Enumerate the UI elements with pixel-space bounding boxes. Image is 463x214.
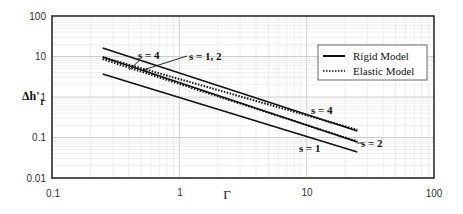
legend-rigid-label: Rigid Model [353, 50, 409, 62]
y-tick-10: 10 [35, 51, 47, 62]
x-tick-10: 10 [301, 187, 313, 198]
y-axis-label-main: Δh' [22, 89, 40, 103]
annotation-s4-left: s = 4 [138, 49, 160, 61]
y-tick-100: 100 [29, 11, 46, 22]
y-tick-0.01: 0.01 [27, 173, 47, 184]
x-tick-100: 100 [426, 188, 443, 199]
annotation-s2-right: s = 2 [361, 137, 383, 149]
legend-elastic-label: Elastic Model [353, 65, 414, 77]
annotation-s12-left: s = 1, 2 [189, 50, 222, 62]
y-tick-0.1: 0.1 [32, 132, 46, 143]
annotation-s4-right: s = 4 [311, 104, 333, 116]
legend: Rigid Model Elastic Model [318, 45, 427, 80]
annotation-s1-right: s = 1 [299, 142, 321, 154]
x-tick-0.1: 0.1 [46, 188, 60, 199]
x-axis-label: Γ [223, 187, 231, 202]
x-tick-1: 1 [177, 187, 183, 198]
chart-canvas: 100 10 1 0.1 0.01 0.1 1 10 100 Γ Δh'1 Ri… [0, 0, 463, 214]
grid-lines [52, 16, 434, 178]
y-axis-label-sub: 1 [40, 97, 45, 107]
